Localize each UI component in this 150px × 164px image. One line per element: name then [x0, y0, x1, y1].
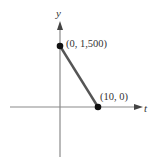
point-a-label: (0, 1,500): [66, 38, 108, 50]
y-axis-label: y: [55, 7, 61, 19]
chart-canvas: y t (0, 1,500) (10, 0): [0, 0, 150, 164]
data-point-b: [95, 104, 102, 111]
data-segment: [60, 46, 98, 107]
line-segment-chart: y t (0, 1,500) (10, 0): [0, 0, 150, 164]
y-axis-arrow-icon: [57, 21, 63, 30]
point-b-label: (10, 0): [100, 91, 128, 103]
x-axis-arrow-icon: [134, 104, 143, 110]
x-axis-label: t: [144, 102, 148, 114]
data-point-a: [57, 43, 64, 50]
